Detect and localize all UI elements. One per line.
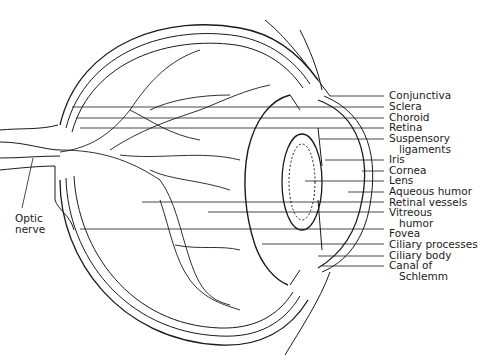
label-nerve: nerve xyxy=(15,224,45,235)
optic-nerve xyxy=(0,125,58,130)
label-ligaments: ligaments xyxy=(399,144,451,155)
sclera-outline xyxy=(60,25,318,125)
lens xyxy=(282,134,322,230)
cornea xyxy=(318,100,365,268)
retina-outline xyxy=(74,176,293,328)
ciliary-body xyxy=(245,95,290,285)
leader-lines xyxy=(22,96,384,266)
label-schlemm: Schlemm xyxy=(399,271,448,282)
eye-diagram: Conjunctiva Sclera Choroid Retina Suspen… xyxy=(0,0,485,362)
retinal-vessels xyxy=(60,50,270,310)
